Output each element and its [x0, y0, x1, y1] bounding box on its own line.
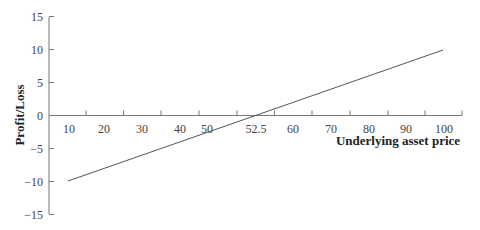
y-tick-label: −10: [24, 175, 43, 189]
y-tick-label: 10: [31, 43, 43, 57]
y-axis-title: Profit/Loss: [12, 84, 27, 145]
x-tick-label: 30: [136, 122, 148, 136]
x-tick-label: 60: [287, 122, 299, 136]
payoff-chart: 151050−5−10−15 102030405052.560708090100…: [0, 0, 480, 230]
x-axis: 102030405052.560708090100: [49, 111, 462, 136]
y-tick-label: −5: [30, 142, 43, 156]
x-tick-label: 40: [174, 122, 186, 136]
y-tick-label: 15: [31, 10, 43, 24]
x-tick-label: 52.5: [246, 122, 267, 136]
x-axis-title: Underlying asset price: [336, 133, 460, 148]
y-tick-label: −15: [24, 208, 43, 222]
y-tick-label: 0: [37, 109, 43, 123]
x-tick-label: 10: [63, 122, 75, 136]
x-tick-label: 20: [98, 122, 110, 136]
y-tick-label: 5: [37, 76, 43, 90]
